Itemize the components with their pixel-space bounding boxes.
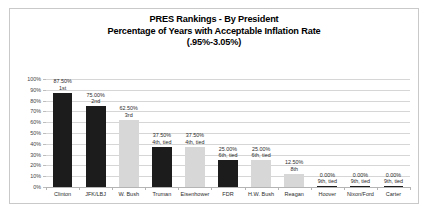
bar-series: 87.50%1st75.00%2nd62.50%3rd37.50%4th, ti… (46, 79, 410, 187)
bar-rank-label: 9th, tied (318, 178, 337, 185)
y-axis-tick-label: 0% (33, 184, 41, 190)
bar-h-w-bush[interactable] (251, 160, 271, 187)
bar-slot: 25.00%6th, tied (245, 79, 278, 187)
bar-value-label: 0.00% (318, 172, 337, 179)
bar-slot: 75.00%2nd (79, 79, 112, 187)
x-axis-tick-mark (145, 187, 146, 190)
x-axis-tick-mark (211, 187, 212, 190)
x-axis-category-label: W. Bush (112, 189, 145, 205)
y-axis-tick-mark (43, 144, 46, 145)
y-axis-tick-label: 90% (30, 87, 41, 93)
bar-slot: 12.50%8th (278, 79, 311, 187)
bar-rank-label: 3rd (120, 112, 138, 119)
x-axis-category-label: Hoover (311, 189, 344, 205)
bar-value-label: 0.00% (351, 172, 370, 179)
x-axis-category-label: Nixon/Ford (344, 189, 377, 205)
chart-title-line-1: PRES Rankings - By President (10, 14, 418, 26)
y-axis-tick-label: 70% (30, 108, 41, 114)
x-axis-category-label: FDR (211, 189, 244, 205)
x-axis-tick-mark (311, 187, 312, 190)
chart-title-line-3: (.95%-3.05%) (10, 37, 418, 49)
x-axis-line (46, 187, 410, 188)
y-axis-tick-mark (43, 133, 46, 134)
x-axis-tick-mark (344, 187, 345, 190)
x-axis-category-label: Reagan (278, 189, 311, 205)
bar-slot: 0.00%9th, tied (344, 79, 377, 187)
bar-value-label: 62.50% (120, 105, 138, 112)
bar-slot: 37.50%4th, tied (145, 79, 178, 187)
bar-slot: 87.50%1st (46, 79, 79, 187)
bar-data-label: 62.50%3rd (120, 105, 138, 118)
bar-data-label: 0.00%9th, tied (318, 172, 337, 185)
bar-jfk-lbj[interactable] (86, 106, 106, 187)
bar-w-bush[interactable] (119, 120, 139, 188)
bar-data-label: 0.00%9th, tied (351, 172, 370, 185)
y-axis-tick-mark (43, 101, 46, 102)
chart-title-line-2: Percentage of Years with Acceptable Infl… (10, 26, 418, 38)
bar-data-label: 37.50%4th, tied (152, 132, 171, 145)
x-axis-tick-mark (377, 187, 378, 190)
bar-reagan[interactable] (284, 174, 304, 188)
bar-value-label: 37.50% (152, 132, 171, 139)
bar-slot: 0.00%9th, tied (311, 79, 344, 187)
bar-eisenhower[interactable] (185, 147, 205, 188)
x-axis-tick-mark (178, 187, 179, 190)
bar-rank-label: 6th, tied (252, 152, 271, 159)
bar-data-label: 0.00%9th, tied (384, 172, 403, 185)
y-axis-tick-label: 20% (30, 162, 41, 168)
bar-value-label: 87.50% (53, 78, 71, 85)
bar-data-label: 75.00%2nd (86, 92, 104, 105)
bar-truman[interactable] (152, 147, 172, 188)
x-axis-tick-mark (245, 187, 246, 190)
bar-value-label: 25.00% (252, 146, 271, 153)
y-axis-tick-label: 30% (30, 152, 41, 158)
x-axis-category-label: H.W. Bush (245, 189, 278, 205)
bar-rank-label: 6th, tied (218, 152, 237, 159)
y-axis-tick-mark (43, 90, 46, 91)
bar-rank-label: 4th, tied (185, 139, 204, 146)
bar-value-label: 75.00% (86, 92, 104, 99)
x-axis-tick-mark (112, 187, 113, 190)
y-axis-tick-mark (43, 79, 46, 80)
y-axis-tick-label: 100% (27, 76, 41, 82)
bar-rank-label: 8th (285, 166, 303, 173)
y-axis-tick-label: 80% (30, 98, 41, 104)
bar-rank-label: 2nd (86, 98, 104, 105)
bar-value-label: 0.00% (384, 172, 403, 179)
bar-rank-label: 9th, tied (351, 178, 370, 185)
x-axis-tick-mark (278, 187, 279, 190)
chart-container: PRES Rankings - By President Percentage … (9, 8, 419, 204)
chart-title: PRES Rankings - By President Percentage … (10, 14, 418, 49)
bar-slot: 0.00%9th, tied (377, 79, 410, 187)
bar-data-label: 25.00%6th, tied (252, 146, 271, 159)
plot-area: 87.50%1st75.00%2nd62.50%3rd37.50%4th, ti… (46, 79, 410, 187)
y-axis: 100%90%80%70%60%50%40%30%20%10%0% (12, 79, 44, 187)
x-axis-category-label: Clinton (46, 189, 79, 205)
x-axis-tick-mark (410, 187, 411, 190)
y-axis-tick-mark (43, 122, 46, 123)
bar-data-label: 87.50%1st (53, 78, 71, 91)
x-axis-category-label: Truman (145, 189, 178, 205)
x-axis-category-label: JFK/LBJ (79, 189, 112, 205)
y-axis-tick-mark (43, 111, 46, 112)
bar-slot: 37.50%4th, tied (178, 79, 211, 187)
x-axis-tick-mark (46, 187, 47, 190)
y-axis-tick-mark (43, 176, 46, 177)
bar-data-label: 12.50%8th (285, 159, 303, 172)
bar-data-label: 25.00%6th, tied (218, 146, 237, 159)
x-axis: ClintonJFK/LBJW. BushTrumanEisenhowerFDR… (46, 189, 410, 205)
bar-data-label: 37.50%4th, tied (185, 132, 204, 145)
bar-rank-label: 1st (53, 85, 71, 92)
x-axis-category-label: Eisenhower (178, 189, 211, 205)
bar-value-label: 37.50% (185, 132, 204, 139)
bar-slot: 62.50%3rd (112, 79, 145, 187)
bar-clinton[interactable] (53, 93, 73, 188)
bar-value-label: 25.00% (218, 146, 237, 153)
x-axis-category-label: Carter (377, 189, 410, 205)
bar-rank-label: 9th, tied (384, 178, 403, 185)
bar-slot: 25.00%6th, tied (211, 79, 244, 187)
bar-fdr[interactable] (218, 160, 238, 187)
x-axis-tick-mark (79, 187, 80, 190)
bar-rank-label: 4th, tied (152, 139, 171, 146)
y-axis-tick-label: 10% (30, 173, 41, 179)
